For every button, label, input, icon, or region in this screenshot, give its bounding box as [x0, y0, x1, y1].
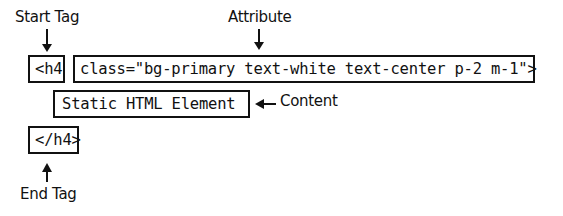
end-tag-arrow-icon: [42, 163, 52, 182]
content-arrow-icon: [255, 99, 276, 109]
start-tag-arrow-icon: [42, 29, 52, 52]
arrows-layer: [0, 0, 563, 216]
attribute-arrow-icon: [254, 29, 264, 50]
